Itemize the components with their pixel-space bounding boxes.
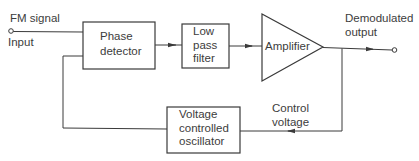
vco-label: Voltage controlled oscillator: [179, 108, 229, 149]
lpf-line1: Low: [193, 25, 217, 39]
lpf-line2: pass: [193, 39, 217, 53]
input-wire: [13, 32, 83, 33]
control-voltage-line2: voltage: [272, 115, 309, 129]
amp-to-output-wire: [323, 48, 392, 51]
input-label-input: Input: [8, 35, 34, 49]
control-voltage-label: Control voltage: [272, 101, 309, 129]
input-terminal: [9, 29, 14, 34]
vco-line1: Voltage: [179, 108, 229, 122]
phase-detector-label: Phase detector: [100, 29, 142, 58]
low-pass-filter-label: Low pass filter: [193, 25, 217, 66]
output-line2: output: [345, 26, 413, 40]
lpf-line3: filter: [193, 52, 217, 66]
amplifier-label: Amplifier: [265, 39, 310, 54]
vco-line3: oscillator: [179, 135, 229, 149]
output-line1: Demodulated: [345, 12, 413, 26]
phase-detector-line2: detector: [100, 44, 142, 59]
phase-detector-line1: Phase: [100, 29, 142, 44]
input-label-fm-signal: FM signal: [10, 11, 60, 25]
output-terminal: [392, 48, 397, 53]
control-voltage-line1: Control: [272, 101, 309, 115]
output-label: Demodulated output: [345, 12, 413, 39]
vco-line2: controlled: [179, 122, 229, 136]
